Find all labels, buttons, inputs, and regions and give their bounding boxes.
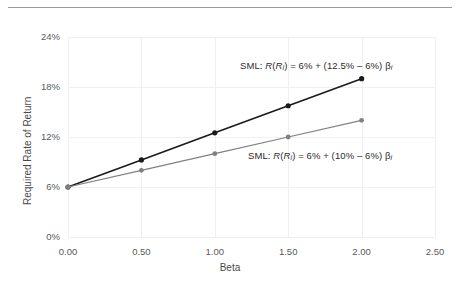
- series-dark: [65, 76, 364, 190]
- x-axis-tick-label: 1.00: [192, 246, 238, 257]
- annotation-beta-subscript: i: [391, 154, 393, 161]
- data-point-marker: [212, 130, 217, 135]
- data-point-marker: [286, 135, 291, 140]
- y-axis-tick-label: 0%: [22, 231, 60, 242]
- data-point-marker: [286, 103, 291, 108]
- annotation-beta-subscript: i: [391, 64, 393, 71]
- data-point-marker: [359, 76, 364, 81]
- annotation-function-name: R: [265, 60, 272, 71]
- data-point-marker: [139, 157, 144, 162]
- annotation-arg: R: [284, 150, 291, 161]
- x-axis-tick-label: 0.00: [45, 246, 91, 257]
- annotation-sml-low: SML: R(Ri) = 6% + (10% – 6%) βi: [248, 150, 392, 161]
- annotation-arg-subscript: i: [283, 64, 285, 71]
- x-axis-title: Beta: [0, 262, 460, 273]
- x-axis-tick-label: 0.50: [118, 246, 164, 257]
- chart-figure: 0%6%12%18%24% 0.000.501.001.502.002.50 R…: [0, 0, 460, 284]
- annotation-arg-subscript: i: [291, 154, 293, 161]
- x-axis-tick-label: 2.00: [339, 246, 385, 257]
- annotation-arg: R: [276, 60, 283, 71]
- y-axis-tick-label: 18%: [22, 81, 60, 92]
- x-axis-tick-label: 2.50: [412, 246, 458, 257]
- data-point-marker: [66, 185, 71, 190]
- annotation-sml-high: SML: R(Ri) = 6% + (12.5% – 6%) βi: [240, 60, 392, 71]
- y-axis-title: Required Rate of Return: [22, 97, 33, 205]
- data-point-marker: [359, 118, 364, 123]
- annotation-function-name: R: [273, 150, 280, 161]
- y-axis-tick-label: 24%: [22, 31, 60, 42]
- data-point-marker: [212, 151, 217, 156]
- series-layer: [0, 0, 460, 284]
- data-point-marker: [139, 168, 144, 173]
- x-axis-tick-label: 1.50: [265, 246, 311, 257]
